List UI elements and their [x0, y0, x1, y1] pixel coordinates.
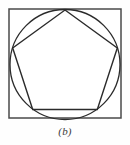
figure-caption: (b): [0, 124, 130, 138]
geometry-diagram: [0, 0, 130, 130]
figure-container: (b): [0, 0, 130, 145]
